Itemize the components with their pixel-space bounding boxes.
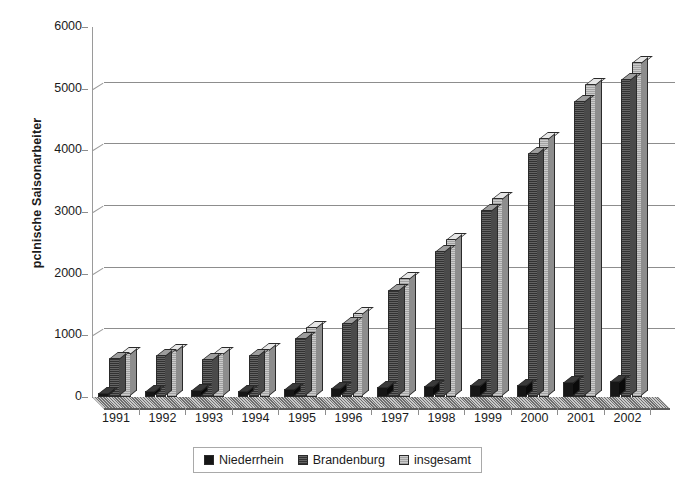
swatch-insgesamt-icon bbox=[399, 455, 409, 465]
x-axis-tick-label-2000: 2000 bbox=[512, 411, 558, 425]
bar-side-face bbox=[548, 133, 555, 396]
y-axis-tick-label: 3000 bbox=[38, 204, 82, 218]
bar-side-face bbox=[176, 345, 183, 396]
bar-side-face bbox=[444, 246, 451, 396]
y-axis-tick-mark bbox=[82, 397, 88, 398]
x-axis-tick-label-2001: 2001 bbox=[558, 411, 604, 425]
x-axis-tick-label-1997: 1997 bbox=[372, 411, 418, 425]
swatch-niederrhein-icon bbox=[204, 455, 214, 465]
y-axis-tick-mark bbox=[82, 212, 88, 213]
bar-side-face bbox=[130, 348, 137, 396]
bar-brandenburg-2002 bbox=[621, 79, 632, 397]
chart-legend: NiederrheinBrandenburginsgesamt bbox=[193, 447, 482, 473]
bar-side-face bbox=[398, 285, 405, 396]
bar-brandenburg-2001 bbox=[574, 101, 585, 397]
bar-niederrhein-1993 bbox=[191, 390, 202, 397]
bar-side-face bbox=[351, 318, 358, 396]
bar-side-face bbox=[223, 348, 230, 396]
bar-niederrhein-2000 bbox=[517, 385, 528, 397]
bar-side-face bbox=[502, 194, 509, 396]
bar-side-face bbox=[212, 355, 219, 396]
bar-niederrhein-2002 bbox=[610, 381, 621, 397]
bar-side-face bbox=[409, 273, 416, 396]
bar-niederrhein-1997 bbox=[377, 387, 388, 397]
x-axis-tick-label-1998: 1998 bbox=[419, 411, 465, 425]
bar-group bbox=[331, 27, 372, 397]
x-axis-tick-label-1994: 1994 bbox=[233, 411, 279, 425]
x-axis-tick-label-2002: 2002 bbox=[605, 411, 651, 425]
y-axis-tick-label: 6000 bbox=[38, 19, 82, 33]
y-axis-tick-mark bbox=[82, 335, 88, 336]
bar-side-face bbox=[491, 205, 498, 396]
y-axis-tick-mark bbox=[82, 150, 88, 151]
legend-label: Niederrhein bbox=[219, 453, 284, 467]
y-axis-tick-label: 0 bbox=[38, 389, 82, 403]
legend-label: Brandenburg bbox=[313, 453, 385, 467]
bar-side-face bbox=[537, 149, 544, 396]
bar-niederrhein-1996 bbox=[331, 388, 342, 397]
legend-item-niederrhein[interactable]: Niederrhein bbox=[204, 453, 284, 467]
bar-group bbox=[377, 27, 418, 397]
bar-side-face bbox=[455, 234, 462, 396]
bar-group bbox=[610, 27, 651, 397]
bar-side-face bbox=[119, 353, 126, 396]
bar-group bbox=[98, 27, 139, 397]
y-axis-tick-label: 4000 bbox=[38, 142, 82, 156]
bar-side-face bbox=[641, 57, 648, 396]
y-axis-tick-label: 2000 bbox=[38, 266, 82, 280]
bar-niederrhein-1991 bbox=[98, 393, 109, 397]
bar-side-face bbox=[269, 344, 276, 396]
y-axis-tick-mark bbox=[82, 27, 88, 28]
x-axis-tick-label-1993: 1993 bbox=[186, 411, 232, 425]
y-axis-tick-mark bbox=[82, 89, 88, 90]
x-axis-tick-labels: 1991199219931994199519961997199819992000… bbox=[92, 411, 672, 431]
x-axis-tick-label-1991: 1991 bbox=[93, 411, 139, 425]
legend-label: insgesamt bbox=[414, 453, 471, 467]
y-axis-tick-label: 1000 bbox=[38, 327, 82, 341]
bar-side-face bbox=[584, 96, 591, 396]
y-axis-tick-labels: 6000500040003000200010000 bbox=[30, 27, 82, 398]
bar-side-face bbox=[305, 333, 312, 396]
bar-brandenburg-1999 bbox=[481, 210, 492, 397]
bar-side-face bbox=[258, 350, 265, 396]
bar-side-face bbox=[165, 350, 172, 396]
bar-group bbox=[424, 27, 465, 397]
legend-item-insgesamt[interactable]: insgesamt bbox=[399, 453, 471, 467]
y-axis-tick-mark bbox=[82, 274, 88, 275]
bar-group bbox=[517, 27, 558, 397]
bar-niederrhein-2001 bbox=[563, 382, 574, 397]
bar-niederrhein-1995 bbox=[284, 389, 295, 397]
bar-series-container bbox=[92, 27, 670, 410]
x-axis-ticks bbox=[92, 398, 672, 410]
bar-group bbox=[284, 27, 325, 397]
bar-side-face bbox=[362, 308, 369, 396]
x-axis-tick-label-1999: 1999 bbox=[465, 411, 511, 425]
x-axis-tick-label-1992: 1992 bbox=[140, 411, 186, 425]
bar-niederrhein-1998 bbox=[424, 386, 435, 397]
bar-group bbox=[563, 27, 604, 397]
legend-item-brandenburg[interactable]: Brandenburg bbox=[298, 453, 385, 467]
bar-brandenburg-1998 bbox=[435, 251, 446, 397]
bar-side-face bbox=[630, 75, 637, 396]
bar-brandenburg-2000 bbox=[528, 153, 539, 397]
bar-side-face bbox=[595, 79, 602, 396]
bar-group bbox=[191, 27, 232, 397]
swatch-brandenburg-icon bbox=[298, 455, 308, 465]
bar-chart: pclnische Saisonarbeiter 600050004000300… bbox=[0, 0, 697, 490]
bar-group bbox=[470, 27, 511, 397]
x-axis-tick-label-1995: 1995 bbox=[279, 411, 325, 425]
bar-side-face bbox=[316, 322, 323, 396]
bar-niederrhein-1992 bbox=[145, 391, 156, 397]
y-axis-tick-label: 5000 bbox=[38, 81, 82, 95]
x-axis-tick-label-1996: 1996 bbox=[326, 411, 372, 425]
bar-group bbox=[145, 27, 186, 397]
bar-group bbox=[238, 27, 279, 397]
bar-niederrhein-1999 bbox=[470, 385, 481, 397]
bar-niederrhein-1994 bbox=[238, 391, 249, 397]
